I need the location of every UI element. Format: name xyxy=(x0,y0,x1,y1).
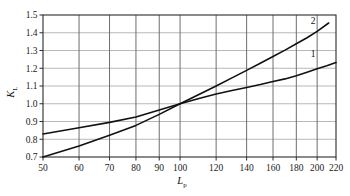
x-tick-label: 100 xyxy=(173,163,188,173)
series-line-2 xyxy=(43,23,329,157)
y-tick-label: 0.8 xyxy=(26,135,38,145)
x-tick-label: 200 xyxy=(310,163,325,173)
y-tick-label: 1.0 xyxy=(26,99,38,109)
x-axis-title: Lp xyxy=(176,175,187,189)
x-tick-label: 70 xyxy=(105,163,115,173)
x-axis-ticklabels: 5060708090100120140160180200220 xyxy=(38,163,343,173)
series-label: 2 xyxy=(311,16,316,26)
x-tick-label: 180 xyxy=(289,163,304,173)
y-tick-label: 1.5 xyxy=(26,10,38,20)
svg-text:KL: KL xyxy=(5,86,19,98)
x-tick-label: 50 xyxy=(38,163,48,173)
x-tick-label: 90 xyxy=(154,163,164,173)
y-tick-label: 0.7 xyxy=(26,152,38,162)
y-tick-label: 0.9 xyxy=(26,117,38,127)
y-tick-label: 1.1 xyxy=(26,81,38,91)
x-tick-label: 160 xyxy=(266,163,281,173)
x-tick-label: 120 xyxy=(209,163,224,173)
y-tick-label: 1.4 xyxy=(26,28,38,38)
x-tick-label: 60 xyxy=(74,163,84,173)
chart-canvas: 5060708090100120140160180200220 0.70.80.… xyxy=(0,0,350,196)
data-series-group xyxy=(43,23,336,157)
x-tick-label: 80 xyxy=(131,163,141,173)
y-axis-title: KL xyxy=(5,86,19,98)
x-tick-label: 140 xyxy=(239,163,254,173)
grid-horizontal xyxy=(43,33,336,140)
series-annotations: 21 xyxy=(311,16,316,60)
y-axis-ticklabels: 0.70.80.91.01.11.21.31.41.5 xyxy=(26,10,38,162)
series-label: 1 xyxy=(311,49,316,59)
chart-figure: 5060708090100120140160180200220 0.70.80.… xyxy=(0,0,350,196)
y-tick-label: 1.3 xyxy=(26,46,38,56)
svg-text:Lp: Lp xyxy=(176,175,187,189)
y-tick-label: 1.2 xyxy=(26,64,38,74)
x-tick-label: 220 xyxy=(329,163,344,173)
